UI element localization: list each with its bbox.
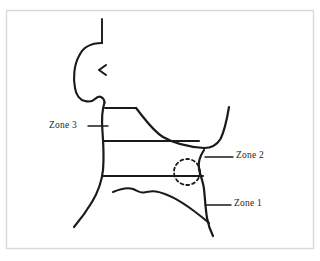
zone-1-label: Zone 1 [234,199,262,209]
zone-3-label: Zone 3 [49,121,77,131]
figure-background [0,0,320,261]
figure-container: Zone 3 Zone 2 Zone 1 [0,0,320,261]
zone-2-label: Zone 2 [236,151,264,161]
neck-zones-diagram [0,0,320,261]
